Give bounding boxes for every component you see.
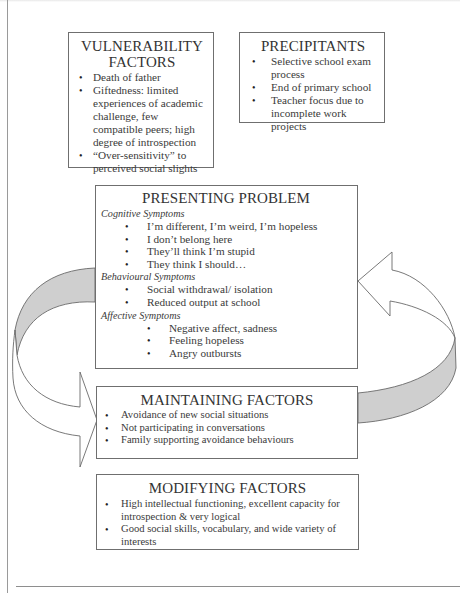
maintaining-title: MAINTAINING FACTORS [103, 392, 351, 408]
maintaining-factors-box: MAINTAINING FACTORS Avoidance of new soc… [96, 386, 358, 459]
precipitants-box: PRECIPITANTS Selective school exam proce… [239, 32, 385, 123]
behavioural-symptoms-heading: Behavioural Symptoms [101, 270, 351, 283]
left-arrow-back-band [15, 268, 95, 355]
precipitant-item: Teacher focus due to incomplete work pro… [248, 94, 378, 133]
maintaining-item: Avoidance of new social situations [103, 409, 351, 422]
precipitant-item: End of primary school [248, 81, 378, 94]
vulnerability-factors-box: VULNERABILITY FACTORS Death of father Gi… [68, 32, 214, 168]
cognitive-symptom-item: I’m different, I’m weird, I’m hopeless [101, 220, 351, 233]
left-arrow-head [13, 330, 97, 467]
right-arrow-head [358, 252, 455, 338]
presenting-title: PRESENTING PROBLEM [101, 190, 351, 206]
affective-symptoms-list: Negative affect, sadness Feeling hopeles… [101, 322, 351, 360]
precipitants-list: Selective school exam process End of pri… [248, 55, 378, 133]
vulnerability-list: Death of father Giftedness: limited expe… [77, 71, 207, 175]
vulnerability-item: Giftedness: limited experiences of acade… [77, 84, 207, 149]
page-bottom-divider [16, 586, 460, 587]
modifying-item: High intellectual functioning, excellent… [103, 498, 352, 523]
behavioural-symptom-item: Social withdrawal/ isolation [101, 283, 351, 296]
precipitants-title: PRECIPITANTS [248, 38, 378, 54]
precipitant-item: Selective school exam process [248, 55, 378, 81]
maintaining-list: Avoidance of new social situations Not p… [103, 409, 351, 447]
modifying-list: High intellectual functioning, excellent… [103, 498, 352, 548]
cognitive-symptom-item: They think I should… [101, 258, 351, 271]
behavioural-symptoms-list: Social withdrawal/ isolation Reduced out… [101, 283, 351, 308]
affective-symptoms-heading: Affective Symptoms [101, 309, 351, 322]
affective-symptom-item: Angry outbursts [101, 347, 351, 360]
vulnerability-title-line2: FACTORS [77, 54, 207, 70]
cognitive-symptom-item: They’ll think I’m stupid [101, 245, 351, 258]
modifying-item: Good social skills, vocabulary, and wide… [103, 523, 352, 548]
modifying-title: MODIFYING FACTORS [103, 480, 352, 496]
affective-symptom-item: Negative affect, sadness [101, 322, 351, 335]
cognitive-symptom-item: I don’t belong here [101, 233, 351, 246]
modifying-factors-box: MODIFYING FACTORS High intellectual func… [96, 474, 359, 550]
vulnerability-title-line1: VULNERABILITY [77, 38, 207, 54]
affective-symptom-item: Feeling hopeless [101, 334, 351, 347]
vulnerability-item: “Over-sensitivity” to perceived social s… [77, 149, 207, 175]
presenting-problem-box: PRESENTING PROBLEM Cognitive Symptoms I’… [95, 185, 358, 369]
right-arrow-back-band [358, 338, 456, 423]
maintaining-item: Family supporting avoidance behaviours [103, 434, 351, 447]
behavioural-symptom-item: Reduced output at school [101, 296, 351, 309]
maintaining-item: Not participating in conversations [103, 422, 351, 435]
cognitive-symptoms-heading: Cognitive Symptoms [101, 207, 351, 220]
cognitive-symptoms-list: I’m different, I’m weird, I’m hopeless I… [101, 220, 351, 270]
vulnerability-item: Death of father [77, 71, 207, 84]
